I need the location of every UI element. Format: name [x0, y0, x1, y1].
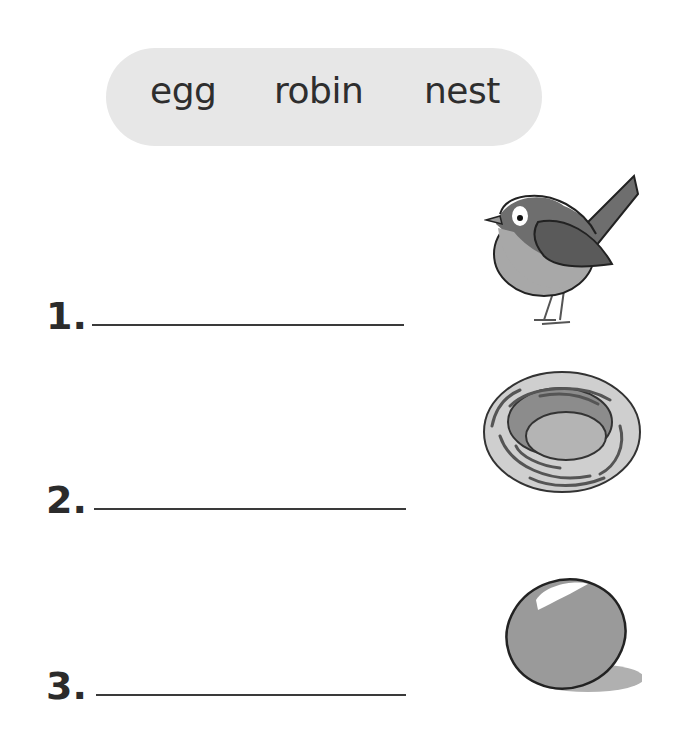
word-bank-word-nest: nest [424, 70, 500, 111]
word-bank-word-robin: robin [274, 70, 363, 111]
answer-line-3[interactable] [96, 694, 406, 696]
word-bank-word-egg: egg [150, 70, 216, 111]
item-number-3: 3. [46, 664, 87, 708]
answer-line-2[interactable] [94, 508, 406, 510]
robin-icon [484, 170, 640, 332]
word-bank: egg robin nest [106, 48, 542, 146]
item-number-1: 1. [46, 294, 87, 338]
answer-line-1[interactable] [92, 324, 404, 326]
nest-icon [480, 366, 644, 496]
item-number-2: 2. [46, 478, 87, 522]
egg-icon [496, 574, 642, 694]
